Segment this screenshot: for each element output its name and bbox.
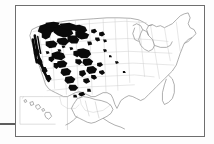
map-frame [15,5,205,137]
figure-root [0,0,214,144]
left-horizontal-rule [0,123,16,125]
us-distribution-map [16,6,204,136]
hawaii-inset [20,97,56,125]
coastline-detail [162,38,192,105]
alaska-inset [44,97,125,130]
